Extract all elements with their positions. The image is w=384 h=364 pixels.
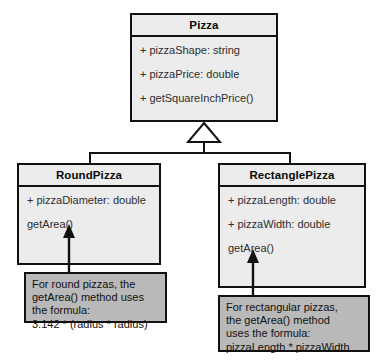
uml-class-diagram: Pizza + pizzaShape: string + pizzaPrice:… <box>0 0 384 364</box>
class-box-pizza[interactable]: Pizza + pizzaShape: string + pizzaPrice:… <box>130 13 278 122</box>
note-line: For rectangular pizzas, <box>226 301 363 314</box>
class-member: + pizzaPrice: double <box>132 68 276 80</box>
note-arrow-round-icon <box>60 224 78 276</box>
note-round-pizza[interactable]: For round pizzas, the getArea() method u… <box>24 272 167 323</box>
class-member: getArea() <box>220 242 364 254</box>
class-name-round-pizza: RoundPizza <box>19 165 159 187</box>
note-line: pizzaLength * pizzaWidth <box>226 341 363 354</box>
class-members-round-pizza: + pizzaDiameter: double getArea() <box>19 187 159 234</box>
class-name-rectangle-pizza: RectanglePizza <box>220 165 364 187</box>
note-line: the getArea() method <box>226 314 363 327</box>
class-member: getArea() <box>19 218 159 230</box>
class-box-round-pizza[interactable]: RoundPizza + pizzaDiameter: double getAr… <box>17 163 161 265</box>
note-line: 3.142 * (radius * radius) <box>32 318 160 331</box>
class-name-pizza: Pizza <box>132 15 276 37</box>
class-box-rectangle-pizza[interactable]: RectanglePizza + pizzaLength: double + p… <box>218 163 366 288</box>
class-members-pizza: + pizzaShape: string + pizzaPrice: doubl… <box>132 37 276 108</box>
inheritance-triangle-icon <box>186 122 222 143</box>
note-line: For round pizzas, the <box>32 278 160 291</box>
class-member: + pizzaLength: double <box>220 194 364 206</box>
class-member: + pizzaDiameter: double <box>19 194 159 206</box>
generalization-bus <box>89 152 291 154</box>
class-member: + pizzaShape: string <box>132 44 276 56</box>
note-line: getArea() method uses <box>32 291 160 304</box>
note-rectangle-pizza[interactable]: For rectangular pizzas, the getArea() me… <box>218 295 370 352</box>
note-line: uses the formula: <box>226 327 363 340</box>
class-member: + pizzaWidth: double <box>220 218 364 230</box>
class-members-rectangle-pizza: + pizzaLength: double + pizzaWidth: doub… <box>220 187 364 258</box>
note-line: the formula: <box>32 304 160 317</box>
class-member: + getSquareInchPrice() <box>132 92 276 104</box>
note-arrow-rectangle-icon <box>244 249 262 299</box>
